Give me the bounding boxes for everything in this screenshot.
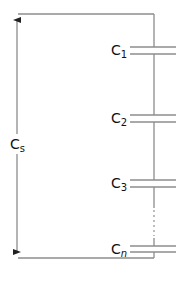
capacitor-c3 — [130, 180, 176, 187]
capacitor-c2 — [130, 115, 176, 122]
label-c3: C3 — [111, 175, 127, 193]
capacitor-c1 — [130, 47, 176, 54]
circuit-diagram: Cs C1 C2 C3 Cn — [0, 0, 186, 306]
label-c2: C2 — [111, 110, 127, 128]
label-c1: C1 — [111, 42, 127, 60]
label-cs: Cs — [10, 136, 25, 154]
capacitor-cn — [130, 246, 176, 252]
label-cn: Cn — [111, 241, 127, 259]
